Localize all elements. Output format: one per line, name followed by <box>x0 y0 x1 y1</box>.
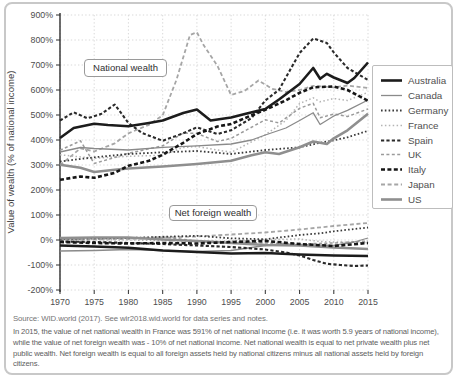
chart-legend: AustraliaCanadaGermanyFranceSpainUKItaly… <box>372 65 453 209</box>
y-tick-label: 600% <box>31 85 54 95</box>
legend-line-sample-france <box>380 121 403 130</box>
x-tick-label: 2000 <box>256 297 276 307</box>
x-tick-label: 1995 <box>221 297 241 307</box>
x-tick-label: 1970 <box>50 297 70 307</box>
legend-line-sample-canada <box>380 91 403 100</box>
legend-line-sample-germany <box>380 106 403 115</box>
y-tick-label: 200% <box>31 185 54 195</box>
legend-label-uk: UK <box>408 149 422 160</box>
figure-root: -200%-100%0%100%200%300%400%500%600%700%… <box>0 0 457 378</box>
y-tick-label: 700% <box>31 60 54 70</box>
legend-label-france: France <box>408 120 439 131</box>
x-tick-label: 1985 <box>153 297 173 307</box>
legend-line-sample-italy <box>380 165 403 174</box>
legend-line-sample-spain <box>380 136 403 145</box>
y-tick-label: -200% <box>28 285 54 295</box>
legend-item-canada: Canada <box>380 88 452 103</box>
legend-label-germany: Germany <box>408 105 448 116</box>
legend-label-canada: Canada <box>408 90 442 101</box>
x-tick-label: 2015 <box>358 297 378 307</box>
x-tick-label: 1980 <box>119 297 139 307</box>
note-paragraph: In 2015, the value of net national wealt… <box>13 327 445 370</box>
y-tick-label: 0% <box>40 235 53 245</box>
canada-net-foreign-wealth-line <box>60 238 368 252</box>
legend-item-us: US <box>380 192 452 207</box>
y-tick-label: 900% <box>31 10 54 20</box>
figure-caption: Source: WID.world (2017). See wir2018.wi… <box>13 314 445 370</box>
y-axis-title: Value of wealth (% of national income) <box>5 70 16 233</box>
annotation-net-foreign-wealth: Net foreign wealth <box>169 205 257 221</box>
y-tick-label: 800% <box>31 35 54 45</box>
legend-item-japan: Japan <box>380 177 452 192</box>
legend-label-spain: Spain <box>408 135 433 146</box>
us-national-wealth-line <box>60 114 368 172</box>
legend-label-australia: Australia <box>408 75 446 86</box>
legend-item-italy: Italy <box>380 162 452 177</box>
legend-item-france: France <box>380 118 452 133</box>
y-tick-label: 500% <box>31 110 54 120</box>
x-tick-label: 1990 <box>187 297 207 307</box>
legend-line-sample-australia <box>380 76 403 85</box>
legend-label-italy: Italy <box>408 164 426 175</box>
legend-label-us: US <box>408 194 422 205</box>
y-tick-label: 300% <box>31 160 54 170</box>
x-tick-label: 2010 <box>324 297 344 307</box>
y-tick-label: 100% <box>31 210 54 220</box>
legend-item-germany: Germany <box>380 103 452 118</box>
annotation-national-wealth: National wealth <box>84 59 167 77</box>
x-tick-label: 2005 <box>290 297 310 307</box>
y-tick-label: -100% <box>28 260 54 270</box>
legend-item-australia: Australia <box>380 73 452 88</box>
legend-line-sample-uk <box>380 150 403 159</box>
legend-label-japan: Japan <box>408 179 435 190</box>
legend-item-spain: Spain <box>380 133 452 148</box>
legend-line-sample-us <box>380 195 403 204</box>
x-tick-label: 1975 <box>84 297 104 307</box>
y-tick-label: 400% <box>31 135 54 145</box>
legend-item-uk: UK <box>380 147 452 162</box>
source-line: Source: WID.world (2017). See wir2018.wi… <box>13 314 445 323</box>
legend-line-sample-japan <box>380 180 403 189</box>
